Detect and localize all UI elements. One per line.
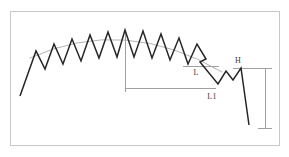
dimension-label-l1: L1 (207, 92, 216, 101)
dimension-label-h: H (235, 56, 241, 65)
zigzag-trace (20, 30, 249, 125)
waveform-dimension-diagram: LL1H (0, 0, 289, 157)
diagram-container: LL1H (0, 0, 289, 157)
dimension-label-l: L (193, 68, 198, 77)
figure-border (11, 12, 280, 146)
